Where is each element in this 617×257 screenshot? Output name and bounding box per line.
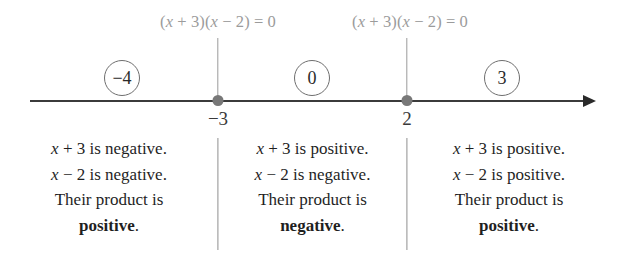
critical-point-dot-right	[402, 95, 413, 106]
verdict-word: positive	[79, 216, 135, 235]
interval-reasoning-area: x + 3 is negative. x − 2 is negative. Th…	[0, 136, 617, 254]
verdict-word: positive	[479, 216, 535, 235]
test-value-circle-right: 3	[484, 60, 520, 96]
test-value-circle-left: −4	[104, 60, 140, 96]
axis-arrowhead-icon	[583, 95, 596, 107]
conclusion-prefix: Their product is	[10, 187, 208, 213]
verdict-punctuation: .	[535, 216, 539, 235]
column-divider-left	[217, 138, 218, 250]
sign-chart-figure: (x + 3)(x − 2) = 0 (x + 3)(x − 2) = 0 −4…	[0, 0, 617, 257]
factor-1-statement: x + 3 is positive.	[222, 136, 403, 162]
verdict-punctuation: .	[341, 216, 345, 235]
conclusion-verdict: positive.	[411, 213, 607, 239]
connector-line-right	[406, 38, 407, 101]
conclusion-verdict: negative.	[222, 213, 403, 239]
critical-point-dot-left	[213, 95, 224, 106]
factor-2-statement: x − 2 is negative.	[222, 162, 403, 188]
test-value-circle-middle: 0	[294, 60, 330, 96]
conclusion-prefix: Their product is	[411, 187, 607, 213]
interval-reasoning-middle: x + 3 is positive. x − 2 is negative. Th…	[222, 136, 403, 238]
column-divider-right	[406, 138, 407, 250]
factor-1-statement: x + 3 is positive.	[411, 136, 607, 162]
critical-point-label-left: (x + 3)(x − 2) = 0	[160, 12, 276, 32]
connector-line-left	[217, 38, 218, 101]
critical-point-tick-label-left: −3	[208, 108, 228, 130]
factor-2-statement: x − 2 is positive.	[411, 162, 607, 188]
number-line-axis	[30, 100, 590, 102]
critical-point-label-right: (x + 3)(x − 2) = 0	[352, 12, 468, 32]
conclusion-prefix: Their product is	[222, 187, 403, 213]
verdict-word: negative	[280, 216, 340, 235]
verdict-punctuation: .	[135, 216, 139, 235]
factor-1-statement: x + 3 is negative.	[10, 136, 208, 162]
critical-point-tick-label-right: 2	[402, 108, 412, 130]
interval-reasoning-left: x + 3 is negative. x − 2 is negative. Th…	[10, 136, 208, 238]
factor-2-statement: x − 2 is negative.	[10, 162, 208, 188]
interval-reasoning-right: x + 3 is positive. x − 2 is positive. Th…	[411, 136, 607, 238]
conclusion-verdict: positive.	[10, 213, 208, 239]
